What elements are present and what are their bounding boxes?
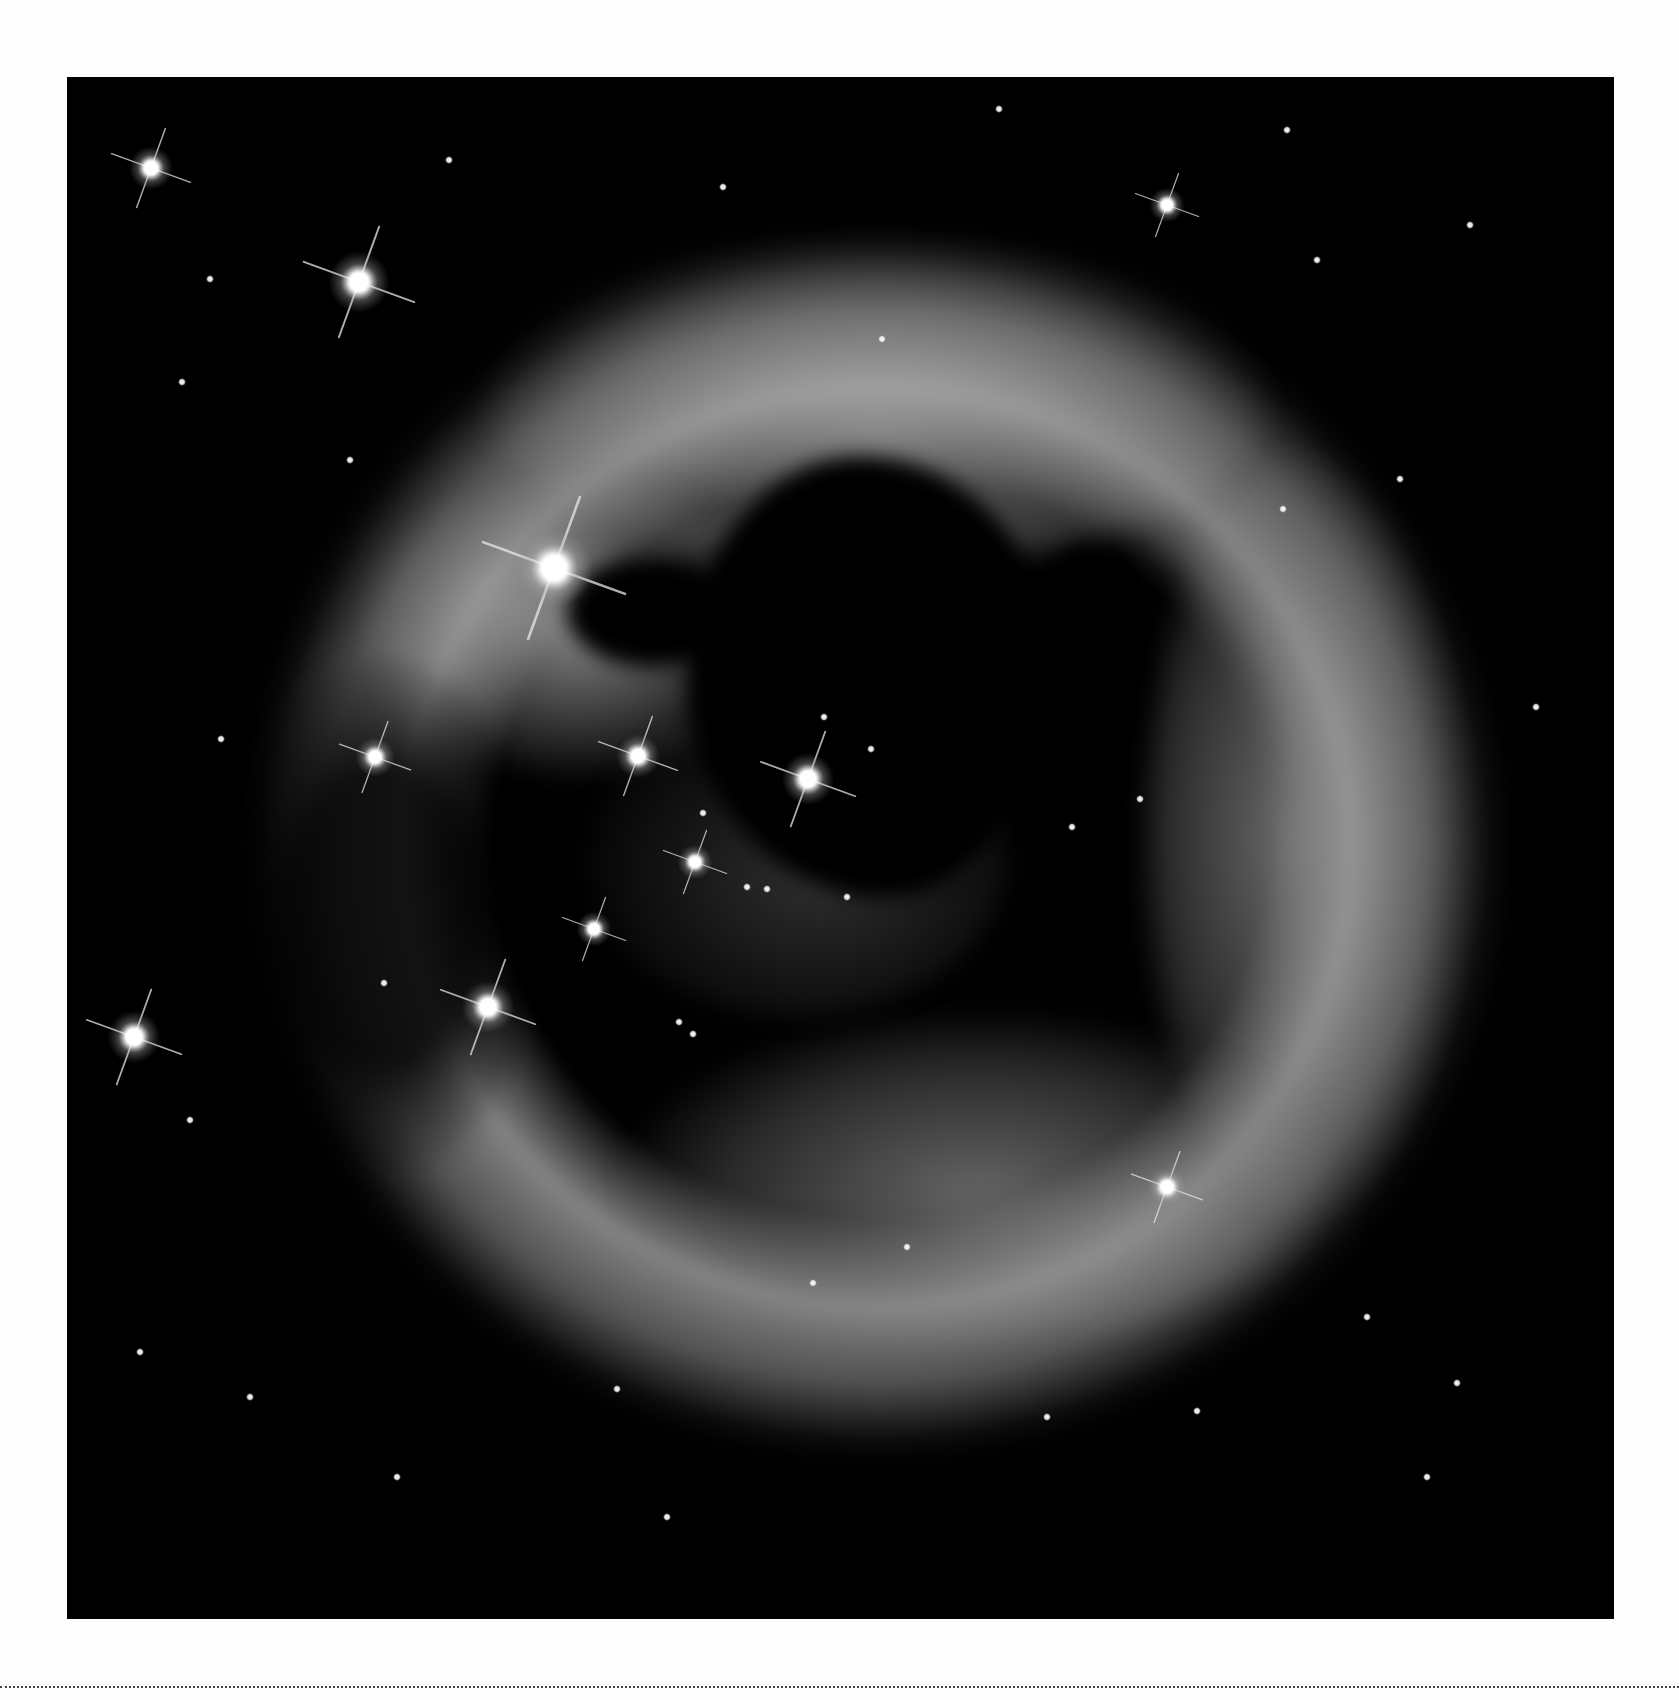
star-field [67,77,1614,1619]
faint-star-icon [1279,505,1287,513]
faint-star-icon [719,183,727,191]
faint-star-icon [699,809,707,817]
faint-star-icon [763,885,771,893]
faint-star-icon [743,883,751,891]
faint-star-icon [136,1348,144,1356]
nebula-photograph [67,77,1614,1619]
dotted-divider [0,1686,1679,1688]
bright-star-icon [441,960,536,1055]
faint-star-icon [995,105,1003,113]
bright-star-icon [483,497,625,639]
bright-star-icon [1135,173,1198,236]
faint-star-icon [1136,795,1144,803]
faint-star-icon [675,1018,683,1026]
faint-star-icon [217,735,225,743]
faint-star-icon [689,1030,697,1038]
faint-star-icon [809,1279,817,1287]
faint-star-icon [1313,256,1321,264]
faint-star-icon [1396,475,1404,483]
faint-star-icon [1453,1379,1461,1387]
faint-star-icon [1532,703,1540,711]
faint-star-icon [1043,1413,1051,1421]
bright-star-icon [304,227,415,338]
faint-star-icon [1283,126,1291,134]
faint-star-icon [1423,1473,1431,1481]
bright-star-icon [663,830,726,893]
faint-star-icon [867,745,875,753]
faint-star-icon [1068,823,1076,831]
bright-star-icon [599,717,678,796]
faint-star-icon [878,335,886,343]
faint-star-icon [178,378,186,386]
faint-star-icon [903,1243,911,1251]
bright-star-icon [1131,1151,1202,1222]
faint-star-icon [393,1473,401,1481]
bright-star-icon [761,732,856,827]
faint-star-icon [613,1385,621,1393]
faint-star-icon [206,275,214,283]
faint-star-icon [346,456,354,464]
faint-star-icon [380,979,388,987]
bright-star-icon [112,129,191,208]
faint-star-icon [1193,1407,1201,1415]
faint-star-icon [445,156,453,164]
faint-star-icon [843,893,851,901]
faint-star-icon [186,1116,194,1124]
bright-star-icon [339,721,410,792]
faint-star-icon [1466,221,1474,229]
bright-star-icon [87,990,182,1085]
bright-star-icon [562,897,625,960]
faint-star-icon [663,1513,671,1521]
faint-star-icon [820,713,828,721]
faint-star-icon [1363,1313,1371,1321]
faint-star-icon [246,1393,254,1401]
